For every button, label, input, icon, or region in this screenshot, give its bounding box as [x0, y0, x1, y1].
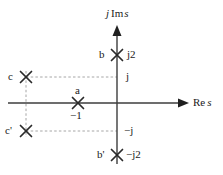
pole-label-cprime: c'	[5, 125, 12, 136]
real-axis-label: Res	[193, 97, 212, 108]
pole-marker-cprime	[21, 126, 32, 137]
plot-canvas	[0, 0, 223, 175]
real-axis-label-re: Re	[193, 96, 205, 108]
pole-label-a: a	[75, 85, 80, 96]
imaginary-axis-label: jIms	[106, 8, 129, 19]
dashed-guides	[26, 71, 117, 137]
pole-label-c: c	[8, 71, 13, 82]
imaginary-axis-label-im: Im	[111, 7, 123, 19]
imaginary-axis-arrowhead	[113, 25, 122, 36]
imaginary-axis-label-j: j	[106, 7, 109, 19]
pole-value-b-j2: j2	[127, 49, 136, 60]
pole-label-b: b	[99, 49, 105, 60]
tick-label-positive-j: j	[126, 71, 129, 82]
real-axis	[8, 99, 189, 108]
real-axis-label-s: s	[207, 96, 211, 108]
imaginary-axis	[113, 25, 122, 164]
tick-label-negative-one: −1	[70, 110, 82, 121]
real-axis-arrowhead	[178, 99, 189, 108]
imaginary-axis-label-s: s	[124, 7, 128, 19]
pole-zero-diagram: jIms Res b j2 c j a −1 c' −j b' −j2	[0, 0, 223, 175]
pole-value-bprime-negj2: −j2	[126, 149, 141, 160]
pole-label-bprime: b'	[97, 149, 104, 160]
tick-label-negative-j: −j	[124, 125, 133, 136]
pole-markers	[21, 50, 123, 161]
